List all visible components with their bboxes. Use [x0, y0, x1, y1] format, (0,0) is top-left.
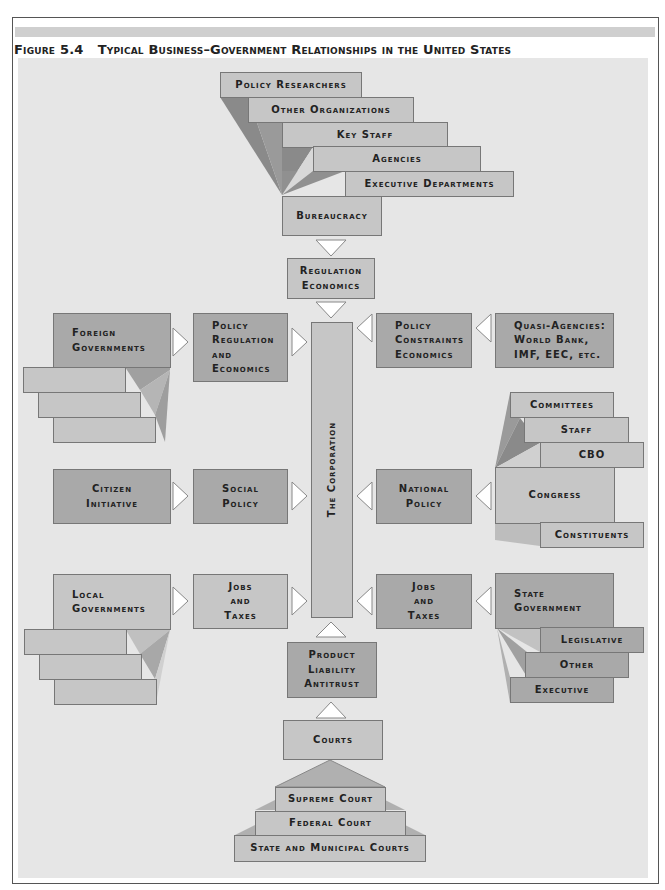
state-municipal-courts-box: State and Municipal Courts [234, 835, 426, 862]
foreign-stack-2 [38, 392, 141, 418]
policy-regulation-box: Policy Regulation and Economics [193, 313, 288, 382]
bureaucracy-item: Key Staff [282, 122, 448, 148]
foreign-governments-box: Foreign Governments [53, 313, 171, 368]
bureaucracy-item: Executive Departments [345, 171, 514, 197]
foreign-stack-1 [23, 367, 126, 393]
state-item: Other [525, 652, 629, 678]
local-stack-2 [39, 654, 142, 680]
citizen-initiative-box: Citizen Initiative [53, 469, 171, 524]
bureaucracy-item: Agencies [313, 146, 481, 172]
federal-court-box: Federal Court [255, 811, 406, 836]
local-stack-1 [24, 629, 127, 655]
local-governments-box: Local Governments [53, 574, 171, 630]
regulation-economics-box: Regulation Economics [287, 258, 375, 299]
social-policy-box: Social Policy [193, 469, 288, 524]
congress-item: CBO [540, 442, 644, 468]
corporation-box: The Corporation [311, 322, 353, 618]
foreign-stack-3 [53, 417, 156, 443]
quasi-agencies-box: Quasi-Agencies: World Bank, IMF, EEC, et… [495, 313, 614, 368]
constituents-box: Constituents [540, 522, 644, 548]
state-item: Executive [510, 677, 614, 703]
jobs-taxes-left-box: Jobs and Taxes [193, 574, 288, 629]
congress-item: Staff [524, 417, 629, 443]
congress-box: Congress [495, 467, 615, 524]
national-policy-box: National Policy [376, 469, 472, 524]
state-government-box: State Government [495, 573, 614, 629]
product-liability-box: Product Liability Antitrust [287, 642, 377, 698]
bureaucracy-item: Other Organizations [248, 97, 414, 123]
bureaucracy-item: Policy Researchers [220, 72, 362, 98]
state-item: Legislative [540, 627, 644, 653]
courts-box: Courts [283, 720, 383, 760]
jobs-taxes-right-box: Jobs and Taxes [376, 574, 472, 629]
supreme-court-box: Supreme Court [275, 787, 386, 812]
congress-item: Committees [510, 392, 614, 418]
local-stack-3 [54, 679, 157, 705]
policy-constraints-box: Policy Constraints Economics [376, 313, 472, 368]
bureaucracy-box: Bureaucracy [282, 196, 382, 236]
